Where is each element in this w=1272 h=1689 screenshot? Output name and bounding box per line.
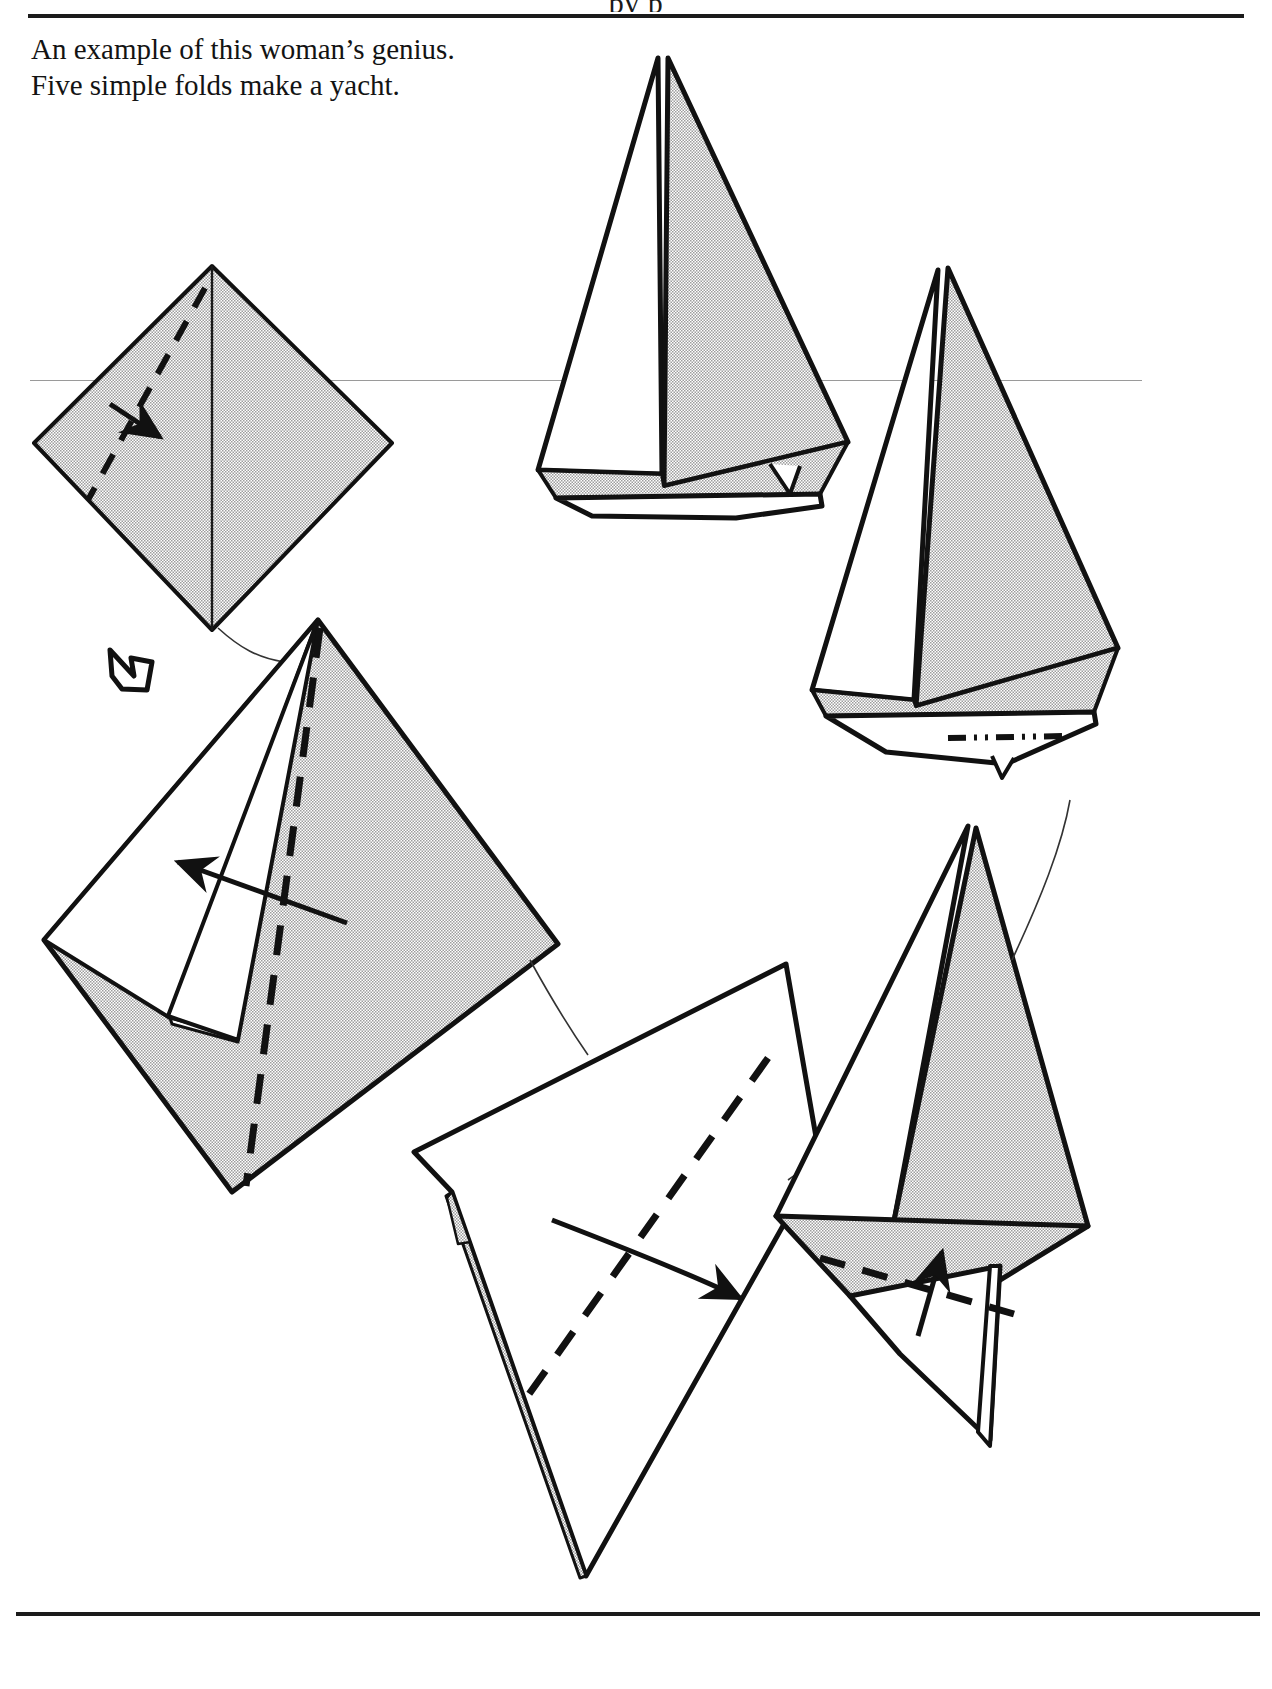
step-3-narrow-kite — [414, 964, 820, 1578]
rudder-notch — [992, 756, 1014, 778]
step-5-yacht-with-crease — [812, 268, 1118, 778]
turn-over-hollow-arrow — [110, 650, 152, 690]
step-4-sail-shape — [776, 800, 1088, 1446]
origami-diagram-sequence — [0, 0, 1272, 1689]
flow-connector-2-3 — [530, 960, 588, 1055]
main-sail-shaded — [916, 268, 1118, 706]
jib-sail-white — [538, 58, 662, 474]
step-6-finished-yacht — [538, 58, 848, 518]
flow-connector-1-2 — [218, 628, 284, 662]
main-sail-shaded — [664, 58, 848, 486]
page: by p An example of this woman’s genius. … — [0, 0, 1272, 1689]
hull — [556, 494, 822, 518]
step-1-square-diamond — [34, 266, 392, 662]
flow-connector-4-5 — [1012, 800, 1070, 960]
origami-diagram-svg — [0, 0, 1272, 1689]
